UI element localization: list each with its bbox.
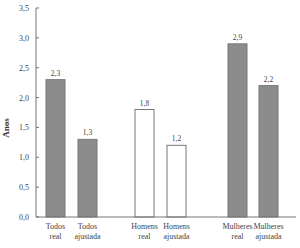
bar-homens-ajustada xyxy=(167,145,186,217)
y-tick-label: 1,5 xyxy=(19,123,29,132)
y-tick-label: 2,0 xyxy=(19,94,29,103)
y-tick-label: 2,5 xyxy=(19,64,29,73)
y-tick-label: 3,0 xyxy=(19,34,29,43)
x-category-label: Todos xyxy=(78,222,97,231)
y-tick-label: 0,0 xyxy=(19,213,29,222)
bar-homens-real xyxy=(135,110,154,217)
x-category-label: ajustada xyxy=(74,232,101,241)
x-category-label: real xyxy=(50,232,63,241)
x-category-label: Homens xyxy=(131,222,158,231)
x-category-label: Homens xyxy=(163,222,190,231)
x-category-label: Mulheres xyxy=(253,222,283,231)
bar-todos-real xyxy=(46,80,65,217)
x-category-label: real xyxy=(232,232,245,241)
y-tick-label: 3,5 xyxy=(19,4,29,13)
x-category-label: real xyxy=(139,232,152,241)
x-category-label: Mulheres xyxy=(222,222,252,231)
y-axis-title: Anos xyxy=(1,118,11,138)
bar-value-label: 2,9 xyxy=(233,33,243,42)
y-axis: 0,00,51,01,52,02,53,03,5 xyxy=(19,4,39,222)
y-tick-label: 0,5 xyxy=(19,183,29,192)
bar-todos-ajustada xyxy=(78,139,97,217)
x-category-label: ajustada xyxy=(163,232,190,241)
bar-value-label: 2,2 xyxy=(264,75,274,84)
bar-value-label: 1,2 xyxy=(172,134,182,143)
bar-mulheres-real xyxy=(228,44,247,217)
x-category-label: Todos xyxy=(46,222,65,231)
x-category-label: ajustada xyxy=(255,232,282,241)
bar-value-label: 1,8 xyxy=(140,99,150,108)
bar-chart: 0,00,51,01,52,02,53,03,5 Anos 2,31,31,81… xyxy=(0,0,300,248)
y-tick-label: 1,0 xyxy=(19,153,29,162)
x-axis-labels: TodosrealTodosajustadaHomensrealHomensaj… xyxy=(46,222,284,241)
bar-value-label: 1,3 xyxy=(83,128,93,137)
bar-value-label: 2,3 xyxy=(51,69,61,78)
bars: 2,31,31,81,22,92,2 xyxy=(46,33,278,217)
bar-mulheres-ajustada xyxy=(259,86,278,217)
